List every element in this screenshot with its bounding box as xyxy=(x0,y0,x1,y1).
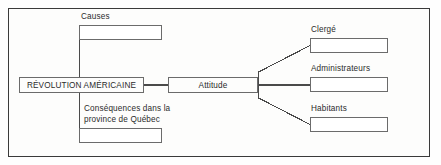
answer-box-habitants[interactable] xyxy=(310,117,388,132)
label-administrateurs: Administrateurs xyxy=(311,63,370,74)
label-causes: Causes xyxy=(81,11,110,22)
answer-box-consequences[interactable] xyxy=(79,128,162,143)
center-node-attitude: Attitude xyxy=(168,77,258,93)
label-clerge: Clergé xyxy=(311,24,336,35)
answer-box-clerge[interactable] xyxy=(310,38,388,53)
diagram-canvas: RÉVOLUTION AMÉRICAINE Attitude Causes Co… xyxy=(0,0,441,165)
label-habitants: Habitants xyxy=(311,103,347,114)
label-consequences: Conséquences dans la province de Québec xyxy=(84,103,170,125)
answer-box-administrateurs[interactable] xyxy=(310,77,388,92)
main-topic-node: RÉVOLUTION AMÉRICAINE xyxy=(19,77,144,93)
answer-box-causes[interactable] xyxy=(79,25,162,40)
